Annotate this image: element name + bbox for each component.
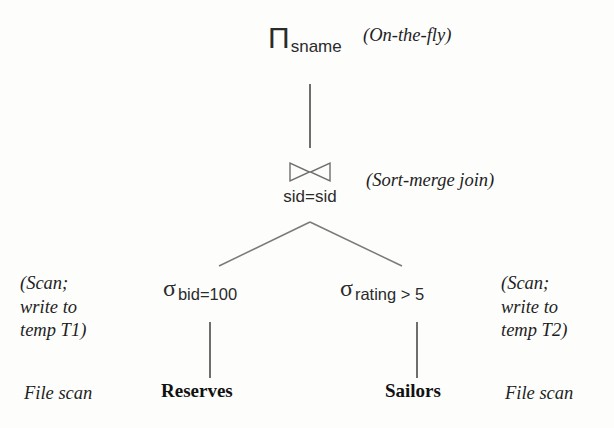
join-condition: sid=sid [262,187,358,207]
edge-select-left-to-reserves [209,322,211,378]
annotation-left-block: (Scan; write to temp T1) [20,272,86,343]
bowtie-join-icon [288,160,332,184]
projection-operator-icon: Π [268,24,290,51]
edge-join-to-select-left [219,222,310,266]
select-left-node[interactable]: σbid=100 [163,278,237,300]
project-node[interactable]: Πsname [268,24,342,51]
select-right-subscript: rating > 5 [355,286,424,303]
select-right-node[interactable]: σrating > 5 [340,278,424,300]
relation-sailors[interactable]: Sailors [385,381,441,400]
relation-reserves[interactable]: Reserves [161,381,233,400]
project-node-subscript: sname [291,38,342,55]
edge-join-to-selections [0,0,614,428]
query-plan-figure: Πsname (On-the-fly) sid=sid (Sort-merge … [0,0,614,428]
edge-join-to-select-right [310,222,402,266]
annotation-left-access-method: File scan [24,382,92,406]
edge-select-right-to-sailors [416,322,418,378]
annotation-join: (Sort-merge join) [366,169,494,193]
selection-operator-icon: σ [340,278,353,300]
selection-operator-icon: σ [163,278,176,300]
join-node[interactable]: sid=sid [262,160,358,207]
select-left-subscript: bid=100 [178,286,237,303]
annotation-right-access-method: File scan [505,382,573,406]
annotation-right-block: (Scan; write to temp T2) [501,272,567,343]
annotation-root: (On-the-fly) [363,24,451,48]
